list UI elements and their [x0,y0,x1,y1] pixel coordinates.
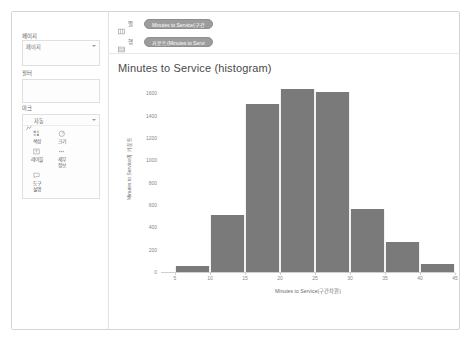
pages-field-placeholder: 페이지 [26,43,41,50]
plot-area [161,82,455,272]
size-icon [57,129,66,138]
y-axis-tick-label: 400 [149,224,157,230]
label-icon [32,147,41,156]
visualization-pane: Minutes to Service (histogram) Minutes t… [109,54,459,329]
histogram-bar[interactable] [385,242,420,272]
marks-type-icon [26,117,32,123]
color-icon [32,129,41,138]
x-axis-tick-label: 15 [242,275,248,281]
x-axis-title: Minutes to Service(구간차원) [161,287,455,294]
rows-icon [118,39,125,46]
marks-tooltip-label: 도구 설명 [33,181,41,192]
y-axis-tick-label: 0 [154,269,157,275]
chart-title: Minutes to Service (histogram) [118,62,272,74]
rows-shelf[interactable]: 행 카운트(Minutes to Servi [109,33,453,51]
histogram-bar[interactable] [210,215,245,272]
marks-detail-label: 세부 정보 [58,157,66,168]
histogram-bar[interactable] [350,209,385,272]
x-axis-tick-label: 35 [382,275,388,281]
columns-shelf[interactable]: 열 Minutes to Service(구간 [109,15,453,33]
histogram-bar[interactable] [420,264,455,272]
columns-pill-minutes-to-service-bin[interactable]: Minutes to Service(구간 [144,19,213,29]
x-axis-tick-label: 20 [277,275,283,281]
shelves-region: 열 Minutes to Service(구간 행 카운트(Minutes to… [109,12,459,54]
x-axis-tick-label: 25 [312,275,318,281]
columns-shelf-label: 열 [128,20,144,28]
pages-shelf-dropzone[interactable]: 페이지 [22,40,100,66]
worksheet-main: 열 Minutes to Service(구간 행 카운트(Minutes to… [109,12,459,329]
chevron-down-icon[interactable] [92,119,96,121]
x-axis-tick-label: 40 [417,275,423,281]
y-axis-tick-label: 1000 [146,157,157,163]
marks-type-selector[interactable]: 자동 [23,115,99,126]
marks-color-button[interactable]: 색상 [24,129,49,144]
columns-icon [118,21,125,28]
worksheet-sidebar: 페이지 페이지 필터 마크 자동 [12,12,109,329]
marks-detail-button[interactable]: 세부 정보 [49,147,74,168]
y-axis-tick-label: 1200 [146,135,157,141]
marks-card-body: 자동 색상 [22,114,100,199]
histogram-bar[interactable] [245,104,280,272]
histogram-bar[interactable] [280,89,315,272]
marks-color-label: 색상 [33,139,41,144]
marks-size-label: 크기 [58,139,66,144]
y-axis-tick-label: 1600 [146,90,157,96]
filters-shelf: 필터 [22,69,100,103]
histogram-bars [161,82,455,272]
filters-shelf-label: 필터 [22,69,100,77]
marks-size-button[interactable]: 크기 [49,129,74,144]
marks-label-label: 레이블 [31,157,43,162]
x-axis-tick-label: 45 [452,275,458,281]
detail-icon [57,147,66,156]
filters-shelf-dropzone[interactable] [22,79,100,103]
marks-card: 마크 자동 [22,104,100,199]
y-axis-ticks: 02004006008001000120014001600 [129,82,159,272]
tableau-worksheet-window: 페이지 페이지 필터 마크 자동 [11,11,460,330]
pages-shelf-label: 페이지 [22,32,100,40]
y-axis-tick-label: 800 [149,180,157,186]
y-axis-tick-label: 200 [149,247,157,253]
y-axis-tick-label: 1400 [146,113,157,119]
marks-buttons-group: 색상 크기 [23,126,99,195]
x-axis-ticks: 51015202530354045 [161,273,455,285]
rows-pill-count-minutes-to-service[interactable]: 카운트(Minutes to Servi [144,37,213,47]
histogram-bar[interactable] [315,92,350,272]
histogram-chart: Minutes to Service의 카운트 0200400600800100… [109,82,455,329]
marks-label-button[interactable]: 레이블 [24,147,49,168]
marks-tooltip-button[interactable]: 도구 설명 [24,171,49,192]
y-axis-tick-label: 600 [149,202,157,208]
x-axis-tick-label: 10 [207,275,213,281]
marks-type-label: 자동 [34,117,44,124]
rows-shelf-label: 행 [128,38,144,46]
x-axis-tick-label: 30 [347,275,353,281]
x-axis-tick-label: 5 [174,275,177,281]
tooltip-icon [32,171,41,180]
pages-shelf: 페이지 페이지 [22,32,100,66]
chevron-down-icon[interactable] [92,45,96,47]
marks-card-label: 마크 [22,104,100,112]
